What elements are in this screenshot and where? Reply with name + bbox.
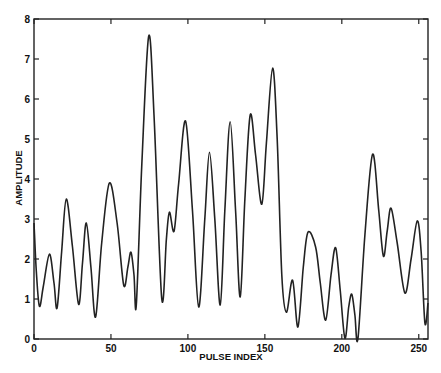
- x-tick-label: 250: [410, 343, 427, 354]
- x-axis-label: PULSE INDEX: [199, 351, 263, 362]
- x-tick-label: 200: [333, 343, 350, 354]
- y-tick-label: 2: [24, 254, 30, 265]
- y-tick-label: 7: [24, 54, 30, 65]
- x-tick-label: 100: [180, 343, 197, 354]
- amplitude-curve: [34, 35, 428, 342]
- y-tick-label: 1: [24, 294, 30, 305]
- y-tick-label: 8: [24, 14, 30, 25]
- y-tick-label: 4: [24, 174, 30, 185]
- x-tick-label: 0: [31, 343, 37, 354]
- x-tick-label: 50: [105, 343, 117, 354]
- y-tick-label: 3: [24, 214, 30, 225]
- y-tick-label: 5: [24, 134, 30, 145]
- amplitude-chart: 050100150200250012345678 PULSE INDEX AMP…: [0, 0, 441, 373]
- y-axis-label: AMPLITUDE: [13, 150, 24, 205]
- y-tick-label: 0: [24, 334, 30, 345]
- y-tick-label: 6: [24, 94, 30, 105]
